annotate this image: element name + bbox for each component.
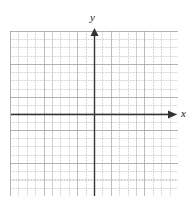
x-axis-label: x bbox=[181, 108, 186, 119]
y-axis-arrowhead bbox=[91, 28, 99, 36]
axes-layer bbox=[0, 0, 192, 210]
y-axis-label: y bbox=[90, 12, 95, 23]
coordinate-grid-figure: y x bbox=[0, 0, 192, 210]
x-axis-arrowhead bbox=[168, 111, 177, 119]
